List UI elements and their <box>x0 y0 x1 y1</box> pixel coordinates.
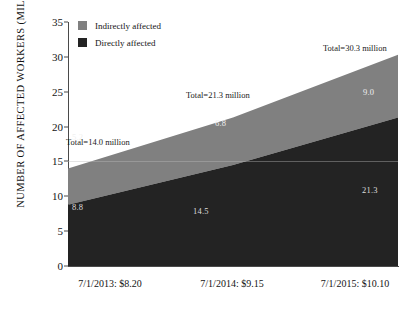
chart-container: NUMBER OF AFFECTED WORKERS (MILLIONS) 35… <box>0 0 420 311</box>
legend-label-indirectly-affected: Indirectly affected <box>95 21 161 31</box>
y-tick-label-10: 10 <box>52 190 63 202</box>
legend-item-indirectly-affected[interactable]: Indirectly affected <box>78 17 161 34</box>
annotation-total-2015: Total=30.3 million <box>323 43 387 53</box>
data-label-indirect-2014: 6.8 <box>215 118 226 128</box>
y-tick-label-5: 5 <box>58 225 64 237</box>
y-axis-title: NUMBER OF AFFECTED WORKERS (MILLIONS) <box>15 0 26 216</box>
data-label-direct-2014: 14.5 <box>193 206 209 216</box>
y-tick-label-0: 0 <box>58 260 64 272</box>
data-label-direct-2015: 21.3 <box>362 185 378 195</box>
annotation-total-2013: Total=14.0 million <box>66 137 130 147</box>
legend-item-directly-affected[interactable]: Directly affected <box>78 34 161 51</box>
legend-swatch-icon-indirectly-affected <box>78 21 87 30</box>
y-tick-label-20: 20 <box>52 121 63 133</box>
legend: Indirectly affected Directly affected <box>78 17 161 51</box>
y-tick-label-15: 15 <box>52 155 63 167</box>
x-axis-label-2013: 7/1/2013: $8.20 <box>78 278 141 289</box>
x-axis-label-2014: 7/1/2014: $9.15 <box>200 278 263 289</box>
y-tick-label-35: 35 <box>52 16 63 28</box>
data-label-indirect-2015: 9.0 <box>363 87 374 97</box>
annotation-total-2014: Total=21.3 million <box>186 90 250 100</box>
data-label-direct-2013: 8.8 <box>72 202 83 212</box>
y-tick-label-25: 25 <box>52 86 63 98</box>
legend-label-directly-affected: Directly affected <box>95 38 156 48</box>
plot-area: 35302520151050 5.2 6.8 9.0 8.8 14.5 21.3… <box>68 22 398 266</box>
x-axis-label-2015: 7/1/2015: $10.10 <box>321 278 389 289</box>
x-axis-line <box>68 266 399 267</box>
legend-swatch-icon-directly-affected <box>78 38 87 47</box>
y-tick-label-30: 30 <box>52 51 63 63</box>
